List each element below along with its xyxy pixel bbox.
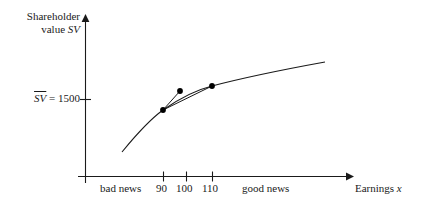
x-label-good-news: good news: [242, 182, 289, 195]
shareholder-value-curve: [122, 62, 325, 152]
y-axis: [82, 14, 90, 183]
data-point-100: [177, 88, 183, 94]
data-point-90: [160, 107, 166, 113]
y-tick-value: = 1500: [46, 92, 80, 104]
x-tick-label-110: 110: [202, 182, 218, 195]
chord-90-to-110: [163, 86, 212, 110]
x-axis-title: Earnings x: [355, 182, 402, 195]
y-axis-arrowhead: [82, 14, 90, 22]
data-point-110: [209, 83, 215, 89]
x-axis-arrowhead: [346, 173, 354, 181]
y-axis-title: Shareholder value SV: [14, 10, 80, 36]
y-tick-label-1500: SV = 1500: [10, 92, 80, 105]
x-label-bad-news: bad news: [100, 182, 141, 195]
y-axis-title-symbol: SV: [68, 23, 80, 35]
x-axis: [78, 173, 354, 181]
chart-canvas: Shareholder value SV SV = 1500 bad news …: [0, 0, 422, 209]
y-tick-symbol: SV: [34, 92, 46, 104]
x-axis-title-prefix: Earnings: [355, 182, 397, 194]
x-tick-label-90: 90: [156, 182, 167, 195]
y-axis-title-line1: Shareholder: [27, 10, 80, 22]
x-tick-label-100: 100: [176, 182, 193, 195]
x-axis-title-symbol: x: [397, 182, 402, 194]
y-axis-title-line2-prefix: value: [41, 23, 68, 35]
